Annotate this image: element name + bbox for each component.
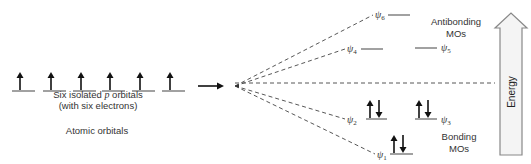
arrowhead (107, 72, 114, 78)
antibonding-label-line2: MOs (446, 28, 466, 39)
correlation-dash-line (235, 86, 345, 119)
arrowhead (137, 72, 144, 78)
mo-label: ψ4 (347, 43, 357, 56)
mo-label: ψ3 (441, 114, 451, 127)
reaction-arrow (198, 83, 224, 90)
atomic-orbitals-title: Atomic orbitals (66, 125, 129, 136)
mo-level-psi6: ψ6 (375, 9, 410, 22)
mo-level-psi4: ψ4 (347, 43, 383, 56)
correlation-dash-line (235, 49, 345, 86)
arrowhead (367, 100, 374, 106)
arrowhead (391, 135, 398, 141)
mo-label: ψ2 (347, 114, 357, 127)
arrowhead (78, 72, 85, 78)
energy-arrow: Energy (495, 13, 527, 155)
atomic-caption-line1: Six isolated p orbitals (53, 89, 143, 100)
atomic-caption-line2: (with six electrons) (59, 100, 138, 111)
mo-energy-diagram: ψ6ψ4ψ5ψ2ψ3ψ1 Six isolated p orbitals (wi… (0, 0, 531, 164)
arrowhead (376, 112, 383, 118)
arrowhead (416, 100, 423, 106)
right-arrow-icon (217, 83, 224, 90)
atomic-p-orbital (12, 72, 35, 91)
bonding-label-line2: MOs (449, 143, 469, 154)
arrowhead (167, 72, 174, 78)
arrowhead (400, 147, 407, 153)
arrowhead (48, 72, 55, 78)
mo-label: ψ6 (375, 9, 385, 22)
mo-label: ψ1 (377, 149, 387, 162)
arrowhead (425, 112, 432, 118)
mo-level-psi1: ψ1 (377, 135, 413, 162)
arrowhead (17, 72, 24, 78)
mo-level-psi2: ψ2 (347, 100, 387, 127)
molecular-orbitals-group: ψ6ψ4ψ5ψ2ψ3ψ1 (347, 9, 451, 162)
mo-level-psi5: ψ5 (415, 42, 451, 55)
mo-level-psi3: ψ3 (415, 100, 451, 127)
bonding-label-line1: Bonding (442, 131, 477, 142)
mo-label: ψ5 (441, 42, 451, 55)
atomic-p-orbital (162, 72, 185, 91)
antibonding-label-line1: Antibonding (431, 16, 481, 27)
energy-label: Energy (506, 76, 517, 108)
